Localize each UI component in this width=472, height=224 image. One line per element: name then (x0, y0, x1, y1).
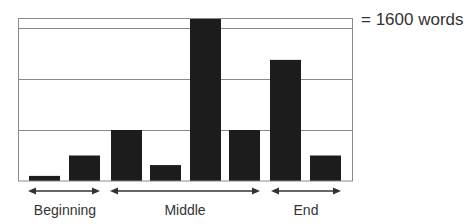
chart-frame (19, 19, 353, 182)
bar (310, 156, 341, 182)
bar (229, 130, 260, 181)
arrowhead-right-icon (92, 188, 100, 195)
section-label-middle: Middle (110, 202, 260, 218)
bar-chart (0, 0, 472, 224)
bar (111, 130, 142, 181)
arrowhead-right-icon (333, 188, 341, 195)
gridlines (18, 29, 353, 131)
arrowhead-left-icon (28, 188, 36, 195)
section-arrows (28, 188, 341, 195)
bar (29, 176, 60, 181)
section-label-end: End (271, 202, 341, 218)
arrowhead-left-icon (271, 188, 279, 195)
bar (69, 156, 100, 182)
bar (190, 18, 221, 181)
bar (270, 60, 301, 181)
section-label-beginning: Beginning (24, 202, 106, 218)
arrowhead-left-icon (110, 188, 118, 195)
arrowhead-right-icon (252, 188, 260, 195)
bars (29, 18, 341, 181)
legend-text: = 1600 words (361, 10, 464, 30)
bar (150, 165, 181, 181)
